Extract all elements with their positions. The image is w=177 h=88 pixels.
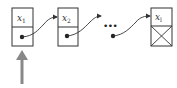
ellipsis: ••• xyxy=(103,21,117,31)
head-pointer-arrow xyxy=(16,50,28,84)
node-2: x2 xyxy=(58,8,78,46)
linked-list-diagram: x1 x2 ••• xl xyxy=(0,0,177,88)
link-arrow-3 xyxy=(113,16,150,36)
node-1: x1 xyxy=(12,8,33,46)
node-last: xl xyxy=(151,8,172,46)
